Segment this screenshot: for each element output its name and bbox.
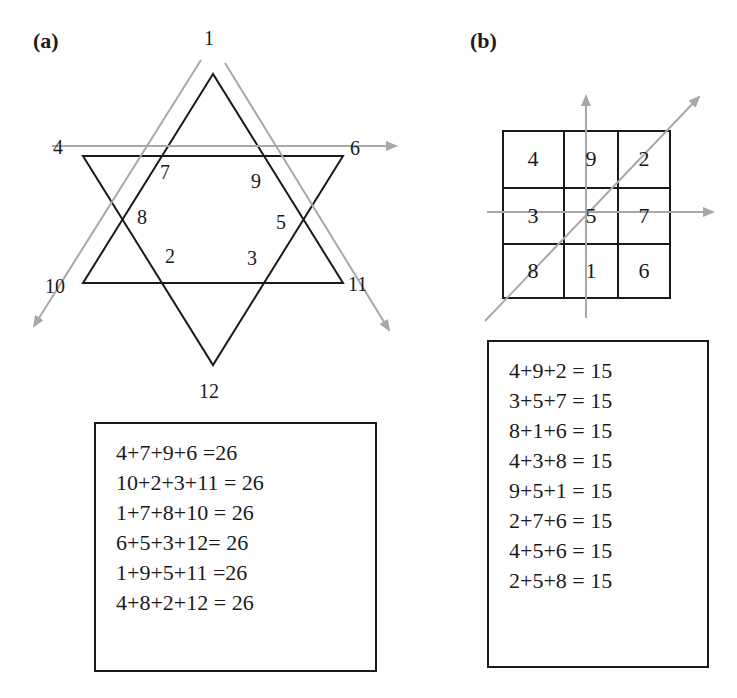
vertex-label-2: 2 [165, 246, 175, 266]
panel-b-equations-box: 4+9+2 = 15 3+5+7 = 15 8+1+6 = 15 4+3+8 =… [487, 340, 709, 668]
grid-cell: 6 [616, 243, 672, 299]
equation: 3+5+7 = 15 [509, 386, 707, 416]
equation: 4+7+9+6 =26 [116, 438, 375, 468]
equation: 8+1+6 = 15 [509, 416, 707, 446]
grid-cell: 7 [616, 188, 672, 244]
vertex-label-8: 8 [137, 207, 147, 227]
grid-cell: 3 [505, 188, 561, 244]
equation: 4+3+8 = 15 [509, 446, 707, 476]
grid-cell: 5 [563, 188, 619, 244]
equation: 1+7+8+10 = 26 [116, 498, 375, 528]
grid-cell: 8 [505, 243, 561, 299]
equation: 4+9+2 = 15 [509, 356, 707, 386]
equation: 4+5+6 = 15 [509, 536, 707, 566]
equation: 6+5+3+12= 26 [116, 528, 375, 558]
equation: 2+5+8 = 15 [509, 566, 707, 596]
equation: 1+9+5+11 =26 [116, 558, 375, 588]
vertex-label-5: 5 [276, 212, 286, 232]
grid-cell: 9 [563, 131, 619, 187]
vertex-label-left-upper: 4 [53, 137, 63, 157]
equation: 9+5+1 = 15 [509, 476, 707, 506]
vertex-label-9: 9 [251, 171, 261, 191]
vertex-label-bottom: 12 [199, 381, 219, 401]
vertex-label-left-lower: 10 [45, 276, 65, 296]
vertex-label-3: 3 [247, 248, 257, 268]
vertex-label-right-lower: 11 [348, 274, 367, 294]
star-of-david [83, 74, 343, 365]
equation: 4+8+2+12 = 26 [116, 588, 375, 618]
grid-cell: 1 [563, 243, 619, 299]
equation: 2+7+6 = 15 [509, 506, 707, 536]
panel-b-label: (b) [470, 28, 497, 54]
grid-cell: 4 [505, 131, 561, 187]
panel-a-arrows [34, 60, 396, 330]
panel-a-equations-box: 4+7+9+6 =26 10+2+3+11 = 26 1+7+8+10 = 26… [94, 422, 377, 672]
grid-cell: 2 [616, 131, 672, 187]
vertex-label-7: 7 [160, 162, 170, 182]
equation: 10+2+3+11 = 26 [116, 468, 375, 498]
panel-a-label: (a) [33, 28, 59, 54]
vertex-label-right-upper: 6 [350, 138, 360, 158]
vertex-label-top: 1 [204, 28, 214, 48]
upward-triangle [83, 74, 343, 283]
